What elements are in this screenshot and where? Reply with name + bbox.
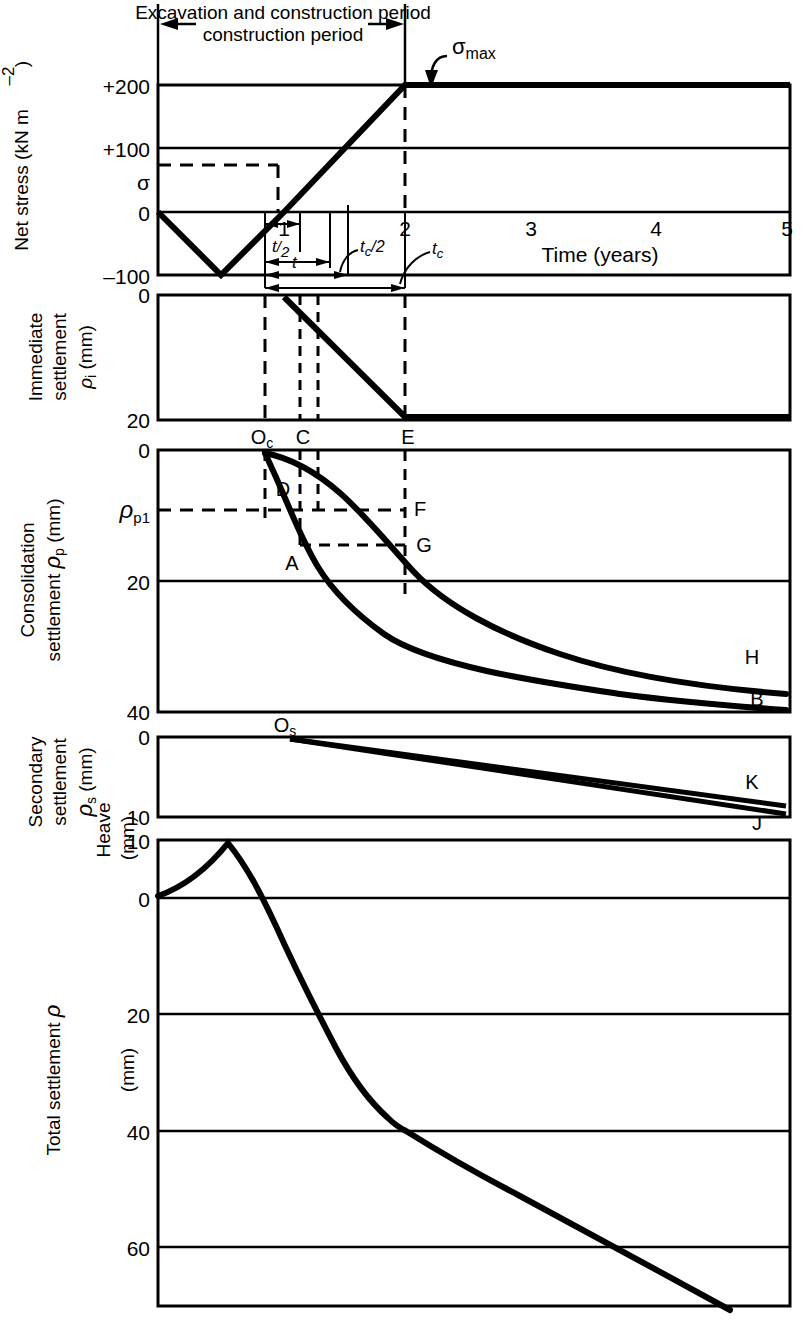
dim-arrow-t-left	[265, 258, 279, 266]
total-ytick-10heave: 10	[127, 830, 150, 853]
total-ylabel-heave: Heave	[93, 803, 114, 858]
immediate-ylabel-line1: Immediate	[25, 313, 46, 402]
time-tick-4: 4	[650, 217, 662, 240]
dim-label-t-half: t/2	[272, 237, 290, 260]
time-tick-5: 5	[781, 217, 793, 240]
immediate-ylabel-group: Immediate settlement ρi (mm)	[25, 312, 99, 401]
point-label-H: H	[745, 646, 759, 668]
dim-label-tc-half: tc/2	[360, 237, 385, 259]
total-ytick-20: 20	[127, 1004, 150, 1027]
total-settlement-curve	[158, 843, 730, 1310]
sigma-tick-label: σ	[137, 171, 150, 194]
secondary-panel-frame	[158, 737, 790, 817]
consolidation-ylabel-group: Consolidation settlement ρp (mm)	[17, 499, 67, 662]
stress-ytick-100: +100	[103, 138, 150, 161]
dimension-annotations: t/2 t tc/2 tc	[265, 205, 444, 292]
point-label-A: A	[285, 552, 299, 574]
consolidation-curve-H	[265, 453, 786, 694]
rho-p1-tick-label: ρp1	[119, 496, 150, 526]
stress-ylabel: Net stress (kN m	[11, 109, 32, 250]
consolidation-ytick-0: 0	[138, 439, 150, 462]
panel-total-settlement: Heave (mm) (mm) Total settlement ρ 10 0 …	[40, 803, 790, 1310]
point-label-Oc: Oc	[251, 426, 274, 451]
point-label-K: K	[745, 771, 759, 793]
total-ytick-0: 0	[138, 888, 150, 911]
total-ytick-60: 60	[127, 1237, 150, 1260]
point-label-J: J	[752, 812, 762, 834]
stress-ylabel-group: Net stress (kN m –2 )	[0, 61, 32, 251]
secondary-ytick-0: 0	[138, 726, 150, 749]
dim-arrow-tchalf-left	[265, 271, 279, 279]
point-label-Os: Os	[274, 714, 297, 739]
time-axis-label: Time (years)	[541, 243, 658, 266]
stress-ytick-200: +200	[103, 75, 150, 98]
panel-secondary-settlement: Secondary settlement ρs (mm) 0 10 Os K J	[25, 714, 790, 834]
settlement-time-figure: Excavation and construction period const…	[0, 0, 809, 1336]
panel-consolidation-settlement: Consolidation settlement ρp (mm) 0 20 40…	[17, 426, 790, 724]
total-ytick-40: 40	[127, 1121, 150, 1144]
construction-period-label-line1: Excavation and construction period	[135, 2, 431, 23]
secondary-curve-K	[290, 739, 786, 806]
dim-arrow-thalf-right	[287, 220, 300, 228]
time-tick-3: 3	[525, 217, 537, 240]
immediate-ytick-20: 20	[127, 409, 150, 432]
immediate-ytick-0: 0	[138, 284, 150, 307]
panel-net-stress: Excavation and construction period const…	[0, 2, 793, 292]
total-ylabel-group: Heave (mm) (mm) Total settlement ρ	[40, 803, 138, 1156]
dim-label-tc: tc	[432, 239, 444, 261]
total-panel-frame	[158, 840, 790, 1306]
secondary-ylabel-group: Secondary settlement ρs (mm)	[25, 736, 99, 827]
consolidation-ytick-40: 40	[127, 701, 150, 724]
stress-ylabel-exponent: –2	[0, 67, 18, 86]
dim-arrow-tc-right	[391, 284, 405, 292]
dim-arrow-t-right	[316, 258, 330, 266]
stress-ytick-0: 0	[138, 202, 150, 225]
consolidation-ylabel-line1: Consolidation	[17, 522, 38, 637]
total-ylabel-mm: (mm)	[117, 1048, 138, 1092]
panel-immediate-settlement: Immediate settlement ρi (mm) 0 20	[25, 284, 790, 432]
point-label-G: G	[416, 534, 432, 556]
dim-arrow-tc-left	[265, 284, 279, 292]
immediate-ylabel-line2: settlement	[49, 312, 70, 400]
consolidation-ylabel-line2: settlement ρp (mm)	[40, 499, 67, 662]
immediate-panel-frame	[158, 295, 790, 420]
dim-arrow-tchalf-right	[334, 271, 348, 279]
consolidation-ytick-20: 20	[127, 571, 150, 594]
construction-period-label-line2: construction period	[203, 24, 364, 45]
point-label-E: E	[401, 426, 414, 448]
sigma-max-label: σmax	[452, 34, 496, 62]
immediate-ylabel-line3: ρi (mm)	[75, 325, 99, 390]
total-ylabel-total: Total settlement ρ	[40, 1005, 65, 1156]
point-label-C: C	[296, 426, 310, 448]
point-label-F: F	[414, 498, 426, 520]
net-stress-curve	[158, 85, 790, 275]
secondary-ylabel-line2: settlement	[49, 737, 70, 825]
immediate-settlement-curve	[284, 297, 790, 417]
secondary-ylabel-line1: Secondary	[25, 736, 46, 827]
stress-ylabel-paren: )	[11, 61, 32, 67]
